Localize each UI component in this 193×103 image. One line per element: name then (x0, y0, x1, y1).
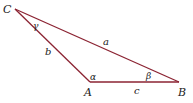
side-c-label: c (134, 85, 140, 96)
triangle-edges (15, 9, 179, 82)
side-a-label: a (103, 36, 109, 47)
triangle-diagram: C A B a b c α β γ (0, 0, 193, 103)
side-b-label: b (45, 46, 51, 57)
side-b-line (15, 9, 90, 82)
side-a-line (15, 9, 179, 82)
angle-gamma-label: γ (33, 21, 39, 31)
vertex-a-label: A (83, 86, 92, 99)
vertex-b-label: B (177, 86, 186, 99)
vertex-c-label: C (3, 3, 12, 16)
angle-beta-label: β (145, 71, 151, 81)
angle-alpha-label: α (90, 72, 96, 82)
